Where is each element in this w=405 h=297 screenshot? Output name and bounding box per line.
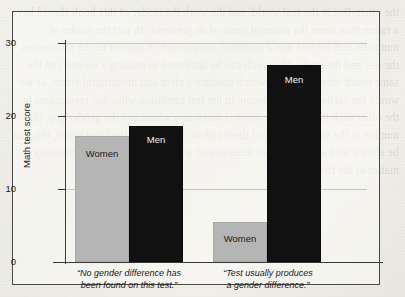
category-label-0-line-2: been found on this test.” [59,280,199,292]
bar-group1-women: Women [75,136,129,262]
y-axis-line [65,40,66,264]
y-tick-label-20: 20 [0,110,16,121]
category-label-1-line-2: a gender difference.” [203,280,333,292]
gridline-30 [65,43,367,44]
bar-chart: 30 20 10 0 Math test score Women Men Wom… [13,12,379,284]
y-tick-label-10: 10 [0,183,16,194]
gridline-20 [65,116,367,117]
bar-label-group1-women: Women [76,148,128,159]
bar-label-group2-men: Men [268,74,320,85]
y-tick-label-30: 30 [0,37,16,48]
bar-group2-women: Women [213,222,267,262]
bar-label-group2-women: Women [214,233,266,244]
y-tick-20 [58,116,66,117]
category-label-1-line-1: “Test usually produces [203,268,333,280]
y-tick-label-0: 0 [0,256,16,267]
category-label-0-line-1: “No gender difference has [59,268,199,280]
category-label-0: “No gender difference has been found on … [59,268,199,291]
y-tick-0 [58,262,66,263]
category-label-1: “Test usually produces a gender differen… [203,268,333,291]
y-tick-10 [58,189,66,190]
bar-group2-men: Men [267,65,321,262]
y-tick-30 [58,43,66,44]
bar-label-group1-men: Men [130,134,182,145]
bar-group1-men: Men [129,126,183,262]
figure-frame: 30 20 10 0 Math test score Women Men Wom… [12,11,380,285]
y-axis-label: Math test score [21,76,32,196]
